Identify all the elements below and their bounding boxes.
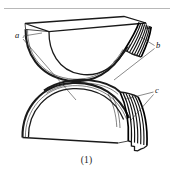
figure-caption: (1): [0, 155, 173, 165]
arch-lamination-stripes: [118, 92, 147, 151]
arch-lam-1: [120, 92, 128, 141]
bowl-lam-1: [125, 23, 140, 50]
leader-lines-group: [23, 33, 155, 120]
lower-arch-group: [22, 80, 147, 151]
label-c: c: [155, 85, 159, 95]
label-b: b: [156, 40, 160, 50]
bowl-wall-thickness-line: [28, 30, 123, 80]
technical-drawing-svg: a b c: [0, 0, 173, 180]
leader-b-lower: [114, 49, 155, 81]
upper-bowl-group: [25, 17, 151, 82]
arch-bottom-front-edge: [23, 138, 119, 144]
bowl-inner-curve: [49, 32, 128, 75]
bowl-rim-left-thickness: [25, 24, 26, 30]
figure-container: a b c (1): [0, 0, 173, 180]
leader-a-joint: [23, 37, 24, 39]
label-a: a: [15, 30, 19, 40]
bowl-lam-2: [127, 23, 141, 51]
arch-outer-curve: [22, 83, 129, 138]
bowl-lamination-stripes: [125, 23, 152, 57]
arch-front-to-fan-edge: [118, 141, 128, 143]
